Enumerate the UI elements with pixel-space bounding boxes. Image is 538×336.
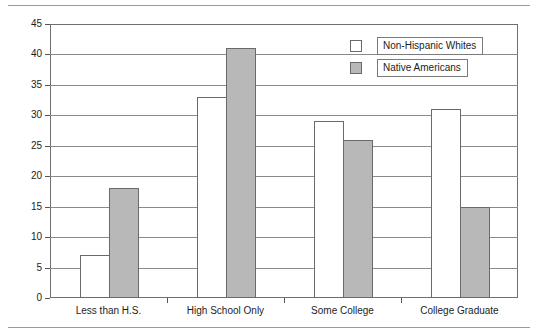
y-axis-tick bbox=[45, 237, 50, 238]
y-axis-tick bbox=[45, 298, 50, 299]
x-axis-category-label: Less than H.S. bbox=[50, 305, 167, 317]
legend-swatch-gray-square bbox=[350, 62, 362, 74]
x-axis-tick bbox=[167, 298, 168, 303]
y-axis-tick bbox=[45, 268, 50, 269]
bar-non-hispanic-whites bbox=[197, 97, 227, 298]
y-axis-tick-label: 45 bbox=[2, 19, 42, 29]
y-axis-tick-label: 35 bbox=[2, 80, 42, 90]
grouped-bar-chart: 051015202530354045 Less than H.S.High Sc… bbox=[0, 0, 538, 336]
bar-native-americans bbox=[109, 188, 139, 298]
y-axis-tick bbox=[45, 85, 50, 86]
y-axis-tick-label: 10 bbox=[2, 232, 42, 242]
y-axis-tick bbox=[45, 24, 50, 25]
bar-native-americans bbox=[226, 48, 256, 298]
y-axis-tick-label: 30 bbox=[2, 110, 42, 120]
y-axis-tick bbox=[45, 115, 50, 116]
bar-native-americans bbox=[343, 140, 373, 298]
bar-native-americans bbox=[460, 207, 490, 298]
x-axis-category-label: High School Only bbox=[167, 305, 284, 317]
x-axis-category-label: College Graduate bbox=[401, 305, 518, 317]
y-axis-tick bbox=[45, 207, 50, 208]
x-axis-category-label: Some College bbox=[284, 305, 401, 317]
legend-swatch-white-square bbox=[350, 40, 362, 52]
y-axis-tick bbox=[45, 146, 50, 147]
y-axis-tick bbox=[45, 54, 50, 55]
y-axis-tick-label: 25 bbox=[2, 141, 42, 151]
bar-non-hispanic-whites bbox=[80, 255, 110, 298]
x-axis-tick bbox=[284, 298, 285, 303]
y-axis-tick-label: 20 bbox=[2, 171, 42, 181]
legend-label: Non-Hispanic Whites bbox=[377, 37, 483, 55]
bar-non-hispanic-whites bbox=[431, 109, 461, 298]
y-axis-tick-label: 5 bbox=[2, 263, 42, 273]
gridline bbox=[50, 85, 518, 86]
x-axis-tick bbox=[401, 298, 402, 303]
bar-non-hispanic-whites bbox=[314, 121, 344, 298]
y-axis-tick-label: 40 bbox=[2, 49, 42, 59]
y-axis-tick-label: 0 bbox=[2, 293, 42, 303]
legend-label: Native Americans bbox=[377, 59, 468, 77]
y-axis-tick bbox=[45, 176, 50, 177]
y-axis-tick-label: 15 bbox=[2, 202, 42, 212]
